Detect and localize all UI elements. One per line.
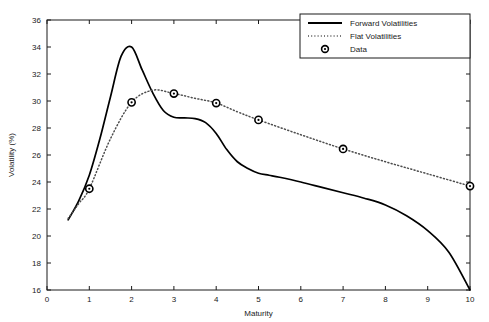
y-tick-label: 26 [32, 151, 41, 160]
plot-frame [47, 20, 470, 290]
x-tick-label: 6 [299, 295, 304, 304]
legend-label-0: Forward Volatilities [350, 19, 417, 28]
volatility-chart-figure: 0123456789101618202224262830323436Maturi… [0, 0, 489, 322]
x-tick-label: 1 [87, 295, 92, 304]
data-point-marker-core [257, 119, 259, 121]
y-tick-label: 36 [32, 16, 41, 25]
x-tick-label: 4 [214, 295, 219, 304]
x-axis-title: Maturity [244, 309, 272, 318]
y-tick-label: 28 [32, 124, 41, 133]
x-tick-label: 3 [172, 295, 177, 304]
y-axis-title: Volatility (%) [7, 133, 16, 177]
x-tick-label: 8 [383, 295, 388, 304]
x-tick-label: 7 [341, 295, 346, 304]
data-point-marker-core [131, 101, 133, 103]
data-point-marker-core [88, 188, 90, 190]
y-tick-label: 34 [32, 43, 41, 52]
chart-canvas: 0123456789101618202224262830323436Maturi… [0, 0, 489, 322]
data-point-marker-core [469, 185, 471, 187]
legend-label-1: Flat Volatilities [350, 32, 401, 41]
x-tick-label: 0 [45, 295, 50, 304]
data-point-marker-core [342, 148, 344, 150]
y-tick-label: 24 [32, 178, 41, 187]
data-point-marker-core [215, 102, 217, 104]
y-tick-label: 18 [32, 259, 41, 268]
x-tick-label: 2 [129, 295, 134, 304]
y-tick-label: 30 [32, 97, 41, 106]
x-tick-label: 10 [466, 295, 475, 304]
data-point-marker-core [173, 92, 175, 94]
y-tick-label: 20 [32, 232, 41, 241]
legend-swatch-data-core [324, 48, 326, 50]
y-tick-label: 16 [32, 286, 41, 295]
x-tick-label: 9 [425, 295, 430, 304]
x-tick-label: 5 [256, 295, 261, 304]
legend-label-2: Data [350, 45, 367, 54]
y-tick-label: 32 [32, 70, 41, 79]
y-tick-label: 22 [32, 205, 41, 214]
